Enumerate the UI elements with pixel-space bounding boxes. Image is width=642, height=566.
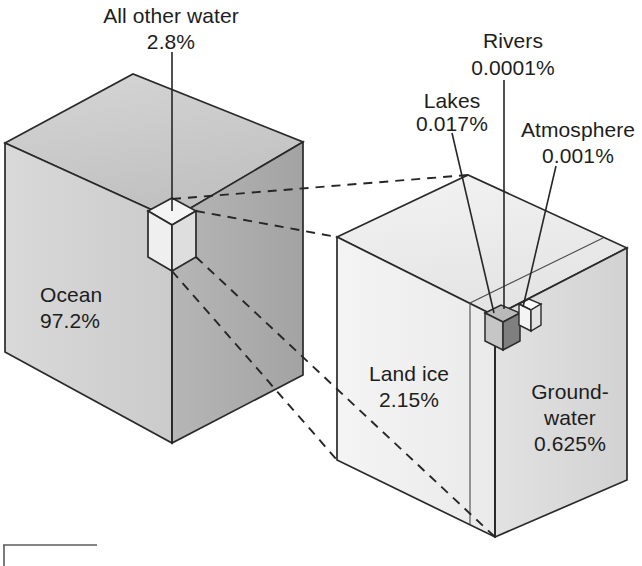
lakes-inset-cube — [485, 305, 520, 350]
isometric-water-cubes-diagram: All other water 2.8% Ocean 97.2% Rivers … — [0, 0, 642, 566]
label-lakes-value: 0.017% — [416, 112, 488, 135]
label-rivers-name: Rivers — [483, 29, 543, 52]
label-groundwater-value: 0.625% — [534, 432, 606, 455]
label-all-other-water-value: 2.8% — [147, 30, 195, 53]
label-atmosphere-name: Atmosphere — [521, 118, 635, 141]
label-groundwater-name-line2: water — [543, 406, 596, 429]
other-water-cube — [337, 175, 627, 537]
label-groundwater-name-line1: Ground- — [531, 380, 609, 403]
label-land-ice-value: 2.15% — [379, 388, 439, 411]
bottom-rule — [3, 545, 97, 566]
label-rivers-value: 0.0001% — [471, 56, 555, 79]
label-lakes-name: Lakes — [424, 89, 481, 112]
label-ocean-name: Ocean — [40, 283, 102, 306]
label-all-other-water-name: All other water — [103, 4, 239, 27]
label-ocean-value: 97.2% — [40, 309, 100, 332]
atmosphere-rivers-inset-cube — [519, 299, 541, 331]
label-atmosphere-value: 0.001% — [542, 144, 614, 167]
label-land-ice-name: Land ice — [369, 362, 449, 385]
water-distribution-figure: All other water 2.8% Ocean 97.2% Rivers … — [0, 0, 642, 566]
